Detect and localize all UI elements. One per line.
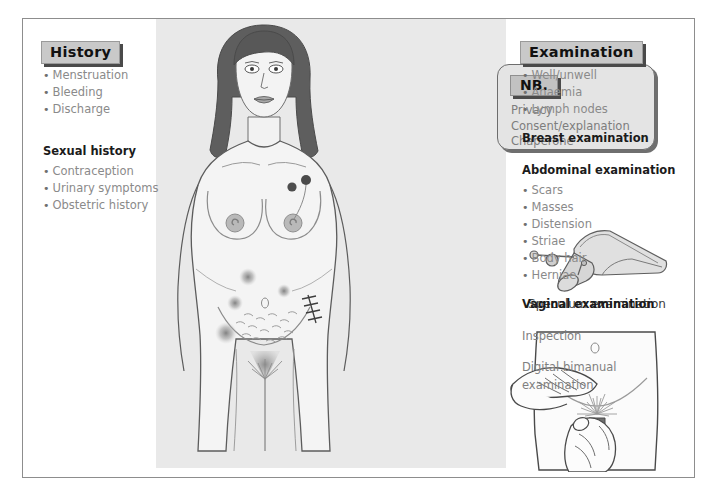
- accessory-nipple-marker: [301, 175, 311, 185]
- abdominal-examination-heading: Abdominal examination: [522, 163, 692, 177]
- examination-column: Well/unwell Anaemia Lymph nodes Breast e…: [522, 67, 692, 396]
- examination-heading: Examination: [520, 41, 643, 64]
- sexual-history-item-list: Contraception Urinary symptoms Obstetric…: [43, 163, 155, 214]
- inspection-text: Inspection: [522, 329, 692, 343]
- spacer: [522, 150, 692, 163]
- illustration-panel: NB. Privacy Consent/explanation Chaperon…: [156, 19, 506, 468]
- list-item: Herniae: [522, 267, 692, 284]
- list-item: Masses: [522, 199, 692, 216]
- spacer: [522, 347, 692, 360]
- list-item: Striae: [522, 233, 692, 250]
- vaginal-examination-heading: Vaginal examination: [522, 297, 692, 311]
- history-heading: History: [41, 41, 120, 64]
- breast-examination-heading: Breast examination: [522, 131, 692, 145]
- list-item: Discharge: [43, 101, 155, 118]
- spacer: [522, 316, 692, 329]
- abdominal-marking: [239, 268, 257, 286]
- spacer: [43, 118, 155, 131]
- abdominal-item-list: Scars Masses Distension Striae Body hair…: [522, 182, 692, 284]
- list-item: Scars: [522, 182, 692, 199]
- list-item: Obstetric history: [43, 197, 155, 214]
- list-item: Bleeding: [43, 84, 155, 101]
- digital-bimanual-text-line1: Digital bimanual: [522, 360, 692, 374]
- spacer: [522, 118, 692, 131]
- abdominal-marking: [227, 295, 243, 311]
- spacer: [522, 284, 692, 297]
- female-torso-illustration: [166, 19, 366, 468]
- abdominal-marking: [277, 284, 291, 298]
- abdominal-marking: [215, 322, 237, 344]
- digital-bimanual-text-line2: examination: [522, 378, 692, 392]
- history-item-list: Menstruation Bleeding Discharge: [43, 67, 155, 118]
- list-item: Well/unwell: [522, 67, 692, 84]
- figure-frame: NB. Privacy Consent/explanation Chaperon…: [22, 18, 695, 478]
- sexual-history-heading: Sexual history: [43, 144, 155, 158]
- list-item: Contraception: [43, 163, 155, 180]
- history-column: Menstruation Bleeding Discharge Sexual h…: [43, 67, 155, 214]
- accessory-nipple-marker: [287, 182, 296, 191]
- list-item: Urinary symptoms: [43, 180, 155, 197]
- list-item: Anaemia: [522, 84, 692, 101]
- examination-item-list: Well/unwell Anaemia Lymph nodes: [522, 67, 692, 118]
- list-item: Lymph nodes: [522, 101, 692, 118]
- list-item: Menstruation: [43, 67, 155, 84]
- list-item: Body hair: [522, 250, 692, 267]
- list-item: Distension: [522, 216, 692, 233]
- spacer: [43, 131, 155, 144]
